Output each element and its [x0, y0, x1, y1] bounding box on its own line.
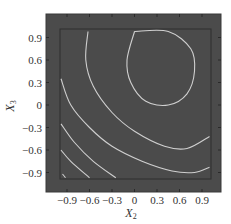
y-tick-label: 0.9 — [28, 32, 42, 44]
x-tick-label: −0.3 — [102, 194, 122, 206]
y-tick-label: −0.6 — [22, 144, 42, 156]
y-tick-label: −0.9 — [22, 167, 42, 179]
x-tick-label: 0.9 — [195, 194, 209, 206]
y-axis-label: X3 — [3, 100, 18, 112]
x-tick-label: −0.6 — [80, 194, 100, 206]
contour-chart: −0.9−0.6−0.300.30.60.9 0.90.60.30−0.3−0.… — [0, 0, 231, 224]
y-tick-label: 0.6 — [28, 54, 42, 66]
y-tick-label: 0 — [37, 99, 43, 111]
x-axis-label: X2 — [124, 206, 136, 221]
x-tick-label: 0.3 — [150, 194, 164, 206]
x-tick-label: 0.6 — [173, 194, 187, 206]
x-tick-label: −0.9 — [57, 194, 77, 206]
y-tick-label: −0.3 — [22, 122, 42, 134]
y-tick-label: 0.3 — [28, 77, 42, 89]
plot-area — [46, 14, 221, 192]
x-tick-label: 0 — [132, 194, 138, 206]
